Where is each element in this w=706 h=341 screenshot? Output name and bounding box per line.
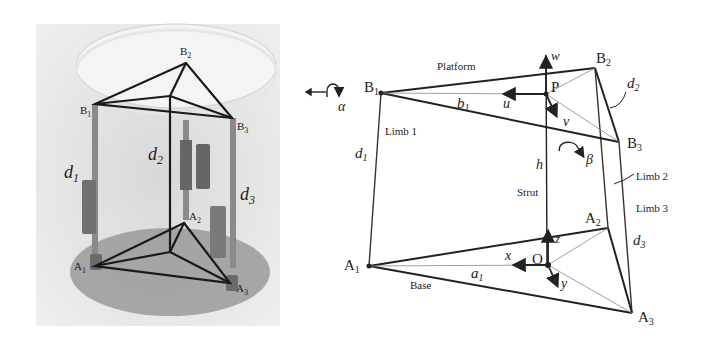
label-A2: A2 xyxy=(585,210,601,228)
base-triangle xyxy=(369,228,632,313)
param-d2: d2 xyxy=(627,75,640,93)
limb-3-label: Limb 3 xyxy=(636,202,669,214)
top-platform-disc xyxy=(76,24,276,108)
label-A3: A3 xyxy=(638,309,654,327)
param-b1: b1 xyxy=(457,95,470,113)
axis-w-label: w xyxy=(551,48,560,63)
base-label: Base xyxy=(410,279,432,291)
limb-1-line xyxy=(369,93,381,266)
param-d1: d1 xyxy=(355,145,368,163)
point-P xyxy=(544,92,549,97)
axis-v-label: v xyxy=(563,114,570,129)
param-alpha: α xyxy=(338,99,346,114)
robot-photo: B2 B1 B3 A2 A1 A3 d1 d2 d3 xyxy=(36,24,280,326)
schematic-diagram: Platform Base Strut Limb 1 Limb 2 Limb 3… xyxy=(306,48,669,327)
label-A1: A1 xyxy=(344,257,360,275)
param-d3: d3 xyxy=(633,232,646,250)
axis-y-label: y xyxy=(559,276,568,291)
alpha-rotation-icon xyxy=(306,84,339,97)
beta-rotation-icon xyxy=(559,142,583,156)
label-B2: B2 xyxy=(596,50,611,68)
limb-2-line xyxy=(595,68,608,228)
limb-2-label: Limb 2 xyxy=(636,170,668,182)
point-O xyxy=(545,262,551,268)
limbs xyxy=(369,68,632,313)
limb-1-label: Limb 1 xyxy=(385,125,417,137)
axis-x-label: x xyxy=(504,248,512,263)
figure-canvas: B2 B1 B3 A2 A1 A3 d1 d2 d3 xyxy=(0,0,706,341)
label-P: P xyxy=(551,79,559,95)
label-O: O xyxy=(532,251,543,267)
param-h: h xyxy=(536,157,543,172)
param-a1: a1 xyxy=(471,265,484,283)
axis-z-label: z xyxy=(554,231,560,246)
platform-label: Platform xyxy=(437,60,476,72)
label-B1: B1 xyxy=(364,79,379,97)
label-B3: B3 xyxy=(627,135,642,153)
axis-u-label: u xyxy=(503,96,510,111)
param-beta: β xyxy=(585,152,593,167)
strut-label: Strut xyxy=(517,186,538,198)
